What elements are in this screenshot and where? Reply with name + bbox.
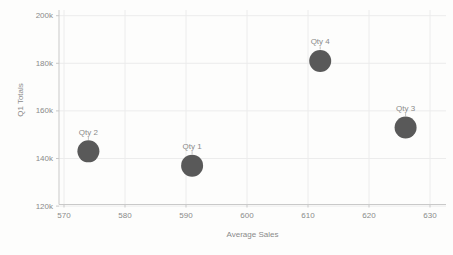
y-tick-label: 200k bbox=[36, 11, 54, 20]
scatter-chart-canvas: 570580590600610620630200k180k160k140k120… bbox=[0, 0, 453, 255]
scatter-point-qty-1[interactable] bbox=[181, 155, 203, 177]
y-tick-label: 140k bbox=[36, 154, 54, 163]
scatter-point-qty-2[interactable] bbox=[77, 140, 99, 162]
scatter-point-qty-4[interactable] bbox=[309, 50, 331, 72]
scatter-chart: 570580590600610620630200k180k160k140k120… bbox=[0, 0, 453, 255]
scatter-point-qty-3[interactable] bbox=[395, 117, 417, 139]
x-tick-label: 630 bbox=[423, 211, 437, 220]
point-label: Qty 1 bbox=[183, 142, 203, 151]
point-label: Qty 4 bbox=[311, 37, 331, 46]
point-label: Qty 2 bbox=[79, 128, 99, 137]
x-tick-label: 620 bbox=[362, 211, 376, 220]
y-tick-label: 120k bbox=[36, 202, 54, 211]
point-label: Qty 3 bbox=[396, 104, 416, 113]
x-axis-title: Average Sales bbox=[59, 230, 446, 239]
x-tick-label: 580 bbox=[118, 211, 132, 220]
x-tick-label: 600 bbox=[240, 211, 254, 220]
x-tick-label: 570 bbox=[57, 211, 71, 220]
x-tick-label: 590 bbox=[179, 211, 193, 220]
x-tick-label: 610 bbox=[301, 211, 315, 220]
y-tick-label: 180k bbox=[36, 59, 54, 68]
y-tick-label: 160k bbox=[36, 106, 54, 115]
y-axis-title: Q1 Totals bbox=[16, 83, 25, 117]
